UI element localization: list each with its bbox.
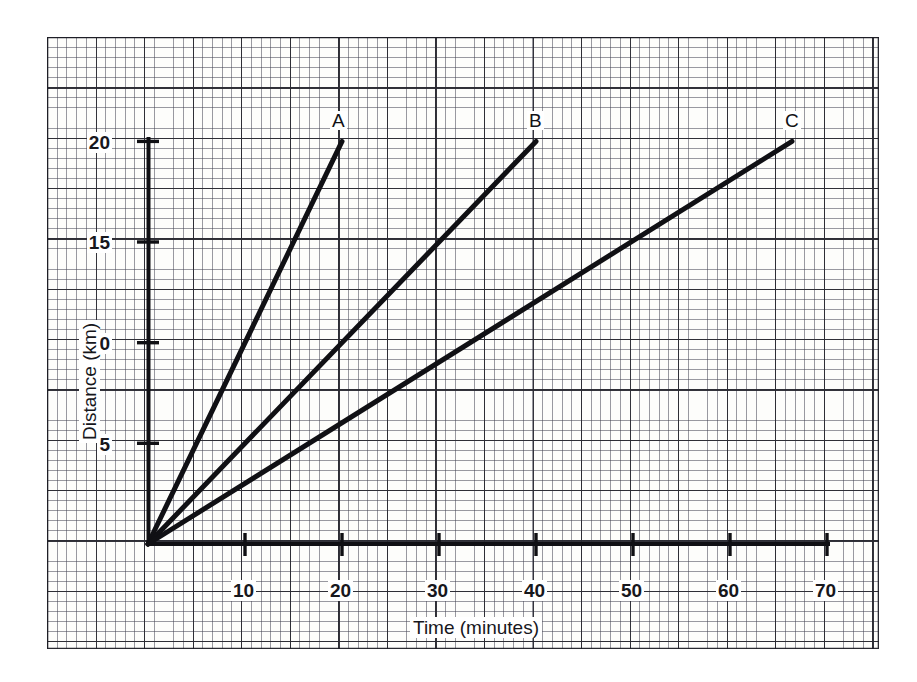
x-axis-title: Time (minutes): [410, 617, 542, 638]
x-tick-label-30: 30: [425, 580, 450, 601]
series-label-b: B: [527, 111, 544, 130]
x-tick-label-10: 10: [231, 580, 256, 601]
y-tick-label-15: 15: [87, 232, 112, 253]
x-tick-label-40: 40: [522, 580, 547, 601]
y-tick-label-20: 20: [87, 132, 112, 153]
series-label-c: C: [783, 111, 801, 130]
x-tick-label-20: 20: [328, 580, 353, 601]
graph-paper-background: [47, 37, 879, 649]
x-tick-label-70: 70: [813, 580, 838, 601]
chart-page: 20 15 10 5 10 20 30 40 50 60 70 Distance…: [0, 0, 917, 682]
x-tick-label-50: 50: [619, 580, 644, 601]
x-tick-label-60: 60: [716, 580, 741, 601]
y-axis-title: Distance (km): [79, 320, 100, 443]
series-label-a: A: [330, 111, 347, 130]
